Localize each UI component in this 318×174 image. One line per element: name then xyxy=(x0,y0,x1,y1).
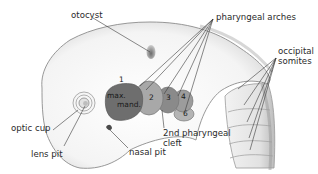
eye xyxy=(73,92,95,114)
label-optic-cup: optic cup xyxy=(11,124,51,134)
label-cleft: cleft xyxy=(163,139,182,149)
embryo-diagram: otocyst pharyngeal arches occipital somi… xyxy=(0,0,318,174)
label-lens-pit: lens pit xyxy=(31,150,63,160)
arch-number-4: 4 xyxy=(181,93,186,101)
arch-number-3: 3 xyxy=(166,94,171,102)
arch-number-2: 2 xyxy=(149,94,154,102)
arch-number-6: 6 xyxy=(183,110,188,118)
arch-label-mand: mand. xyxy=(117,101,141,109)
arch-label-max: max. xyxy=(107,92,126,100)
arch-number-1: 1 xyxy=(119,76,124,84)
label-somites: somites xyxy=(278,57,312,67)
label-otocyst: otocyst xyxy=(71,11,103,21)
label-nasal-pit: nasal pit xyxy=(129,148,166,158)
label-pharyngeal-arches: pharyngeal arches xyxy=(216,13,296,23)
otocyst-shape xyxy=(147,45,156,59)
